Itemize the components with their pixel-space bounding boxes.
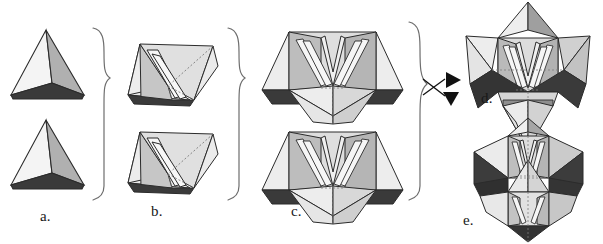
shape-e-stellated-octahedron	[474, 118, 583, 242]
brace-after-a	[93, 28, 110, 200]
shape-a-top-tetrahedron	[11, 30, 84, 99]
shape-a-bottom-tetrahedron	[11, 120, 84, 189]
caption-label-d: d.	[481, 90, 493, 107]
caption-label-c: c.	[291, 203, 302, 220]
caption-label-b: b.	[151, 203, 163, 220]
caption-label-a: a.	[40, 208, 51, 225]
brace-after-b	[228, 28, 245, 200]
shape-c-bottom-star	[262, 132, 403, 224]
shape-c-top-star	[262, 32, 403, 124]
brace-after-c	[409, 22, 427, 200]
shape-b-top-pair	[128, 44, 218, 106]
shape-b-bottom-pair	[128, 132, 218, 194]
caption-label-e: e.	[463, 212, 474, 229]
